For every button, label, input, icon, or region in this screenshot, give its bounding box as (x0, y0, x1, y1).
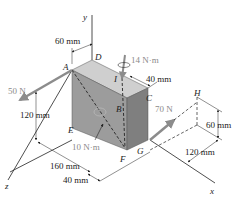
statics-diagram: y z x 10 N·m 50 N 70 N 14 N·m A B C D E … (0, 0, 240, 197)
point-h: H (193, 88, 201, 98)
force-70-label: 70 N (155, 104, 173, 114)
x-axis-label: x (209, 186, 214, 196)
force-50-arrow (20, 70, 72, 100)
point-f: F (119, 154, 126, 164)
force-50-label: 50 N (8, 86, 26, 96)
couple-14-label: 14 N·m (131, 55, 159, 65)
dim-120-right-label: 120 mm (185, 147, 215, 157)
dim-120-left-label: 120 mm (20, 110, 50, 120)
force-70-arrow (150, 120, 174, 140)
dim-60-top-label: 60 mm (55, 36, 80, 46)
line-gh-dashed (174, 103, 196, 120)
dim-40-bottom-label: 40 mm (63, 175, 88, 185)
point-a: A (62, 62, 69, 72)
block-side-face (127, 88, 148, 150)
point-e: E (67, 125, 74, 135)
point-b: B (116, 104, 122, 114)
dim-40-bottom-arrow (88, 174, 100, 181)
dim-160-label: 160 mm (50, 161, 80, 171)
dim-40-right-label: 40 mm (146, 74, 171, 84)
couple-10-label: 10 N·m (72, 142, 100, 152)
point-g: G (137, 146, 144, 156)
point-d: D (94, 52, 102, 62)
z-axis-label: z (4, 181, 9, 191)
point-c: C (146, 93, 153, 103)
dim-60-right-label: 60 mm (206, 120, 231, 130)
dim-60-right-ext-top (197, 97, 222, 112)
y-axis-label: y (82, 12, 87, 22)
couple-14-arrow (122, 55, 125, 78)
